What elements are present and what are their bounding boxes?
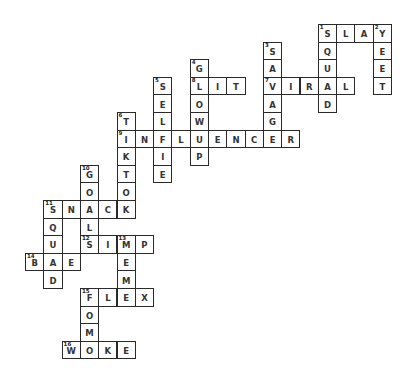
crossword-cell[interactable]: I [208, 77, 227, 96]
cell-letter: E [379, 47, 385, 57]
cell-letter: T [123, 117, 129, 127]
crossword-cell[interactable]: 6T [117, 112, 136, 131]
cell-letter: G [196, 64, 203, 74]
crossword-cell[interactable]: 8L [190, 77, 209, 96]
cell-letter: T [233, 82, 239, 92]
cell-letter: N [232, 135, 239, 145]
crossword-cell[interactable]: U [43, 235, 62, 254]
crossword-cell[interactable]: 5S [153, 77, 172, 96]
crossword-cell[interactable]: L [80, 218, 99, 237]
crossword-cell[interactable]: O [80, 341, 99, 360]
crossword-cell[interactable]: O [80, 306, 99, 325]
crossword-cell[interactable]: F [153, 130, 172, 149]
crossword-cell[interactable]: L [336, 24, 355, 43]
cell-letter: L [343, 29, 348, 39]
crossword-cell[interactable]: E [153, 165, 172, 184]
crossword-cell[interactable]: 12S [80, 235, 99, 254]
crossword-cell[interactable]: 2Y [373, 24, 392, 43]
crossword-cell[interactable]: O [190, 94, 209, 113]
crossword-cell[interactable]: 9I [117, 130, 136, 149]
cell-letter: N [68, 205, 75, 215]
crossword-cell[interactable]: I [281, 77, 300, 96]
cell-letter: L [87, 223, 92, 233]
crossword-cell[interactable]: T [226, 77, 245, 96]
crossword-cell[interactable]: 14B [25, 253, 44, 272]
crossword-cell[interactable]: X [135, 288, 154, 307]
crossword-cell[interactable]: A [263, 59, 282, 78]
clue-number: 6 [119, 113, 123, 119]
crossword-cell[interactable]: L [171, 130, 190, 149]
crossword-cell[interactable]: E [153, 94, 172, 113]
crossword-cell[interactable]: 1S [318, 24, 337, 43]
crossword-cell[interactable]: P [190, 147, 209, 166]
crossword-cell[interactable]: E [117, 341, 136, 360]
crossword-cell[interactable]: K [117, 200, 136, 219]
crossword-cell[interactable]: A [354, 24, 373, 43]
crossword-cell[interactable]: U [318, 59, 337, 78]
crossword-cell[interactable]: I [153, 147, 172, 166]
crossword-cell[interactable]: 3S [263, 42, 282, 61]
crossword-cell[interactable]: D [43, 270, 62, 289]
crossword-cell[interactable]: Q [318, 42, 337, 61]
crossword-cell[interactable]: U [190, 130, 209, 149]
crossword-cell[interactable]: M [80, 323, 99, 342]
crossword-cell[interactable]: E [373, 59, 392, 78]
crossword-cell[interactable]: A [318, 77, 337, 96]
crossword-cell[interactable]: 10G [80, 165, 99, 184]
crossword-cell[interactable]: C [98, 200, 117, 219]
crossword-cell[interactable]: 7V [263, 77, 282, 96]
cell-letter: E [379, 64, 385, 74]
crossword-cell[interactable]: E [263, 130, 282, 149]
crossword-cell[interactable]: E [208, 130, 227, 149]
crossword-cell[interactable]: E [373, 42, 392, 61]
crossword-cell[interactable]: O [117, 182, 136, 201]
cell-letter: U [49, 240, 56, 250]
crossword-cell[interactable]: L [98, 288, 117, 307]
crossword-cell[interactable]: A [263, 94, 282, 113]
crossword-cell[interactable]: E [117, 288, 136, 307]
crossword-cell[interactable]: A [80, 200, 99, 219]
cell-letter: A [86, 205, 93, 215]
crossword-cell[interactable]: O [80, 182, 99, 201]
cell-letter: A [269, 100, 276, 110]
crossword-cell[interactable]: K [98, 341, 117, 360]
crossword-cell[interactable]: 16W [62, 341, 81, 360]
crossword-cell[interactable]: T [373, 77, 392, 96]
cell-letter: M [85, 328, 93, 338]
cell-letter: G [269, 117, 276, 127]
crossword-cell[interactable]: 4G [190, 59, 209, 78]
crossword-cell[interactable]: K [117, 147, 136, 166]
crossword-cell[interactable]: L [153, 112, 172, 131]
crossword-cell[interactable]: R [281, 130, 300, 149]
crossword-cell[interactable]: M [117, 270, 136, 289]
crossword-cell[interactable]: N [135, 130, 154, 149]
clue-number: 2 [375, 25, 379, 31]
crossword-cell[interactable]: 11S [43, 200, 62, 219]
cell-letter: T [379, 82, 385, 92]
crossword-cell[interactable]: 15F [80, 288, 99, 307]
crossword-cell[interactable]: E [62, 253, 81, 272]
cell-letter: Y [379, 29, 385, 39]
crossword-cell[interactable]: A [43, 253, 62, 272]
cell-letter: Q [49, 223, 56, 233]
crossword-cell[interactable]: C [245, 130, 264, 149]
cell-letter: F [160, 135, 166, 145]
crossword-cell[interactable]: 13M [117, 235, 136, 254]
clue-number: 9 [119, 131, 123, 137]
crossword-cell[interactable]: N [226, 130, 245, 149]
cell-letter: L [178, 135, 183, 145]
clue-number: 8 [192, 78, 196, 84]
crossword-cell[interactable]: L [336, 77, 355, 96]
crossword-cell[interactable]: P [135, 235, 154, 254]
crossword-cell[interactable]: G [263, 112, 282, 131]
crossword-cell[interactable]: N [62, 200, 81, 219]
crossword-cell[interactable]: D [318, 94, 337, 113]
crossword-cell[interactable]: T [117, 165, 136, 184]
crossword-cell[interactable]: Q [43, 218, 62, 237]
crossword-cell[interactable]: I [98, 235, 117, 254]
crossword-cell[interactable]: W [190, 112, 209, 131]
crossword-cell[interactable]: E [117, 253, 136, 272]
cell-letter: R [306, 82, 313, 92]
cell-letter: U [196, 135, 203, 145]
crossword-cell[interactable]: R [300, 77, 319, 96]
